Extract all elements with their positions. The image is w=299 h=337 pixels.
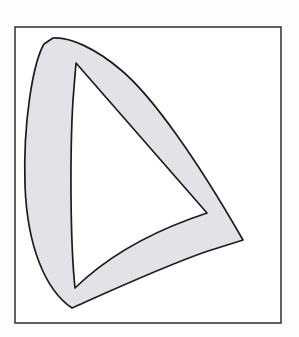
figure-canvas xyxy=(0,0,299,337)
figure-container xyxy=(0,0,299,337)
